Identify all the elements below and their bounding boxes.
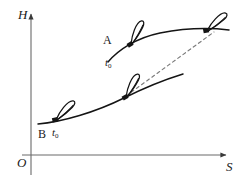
dashed-connector-line <box>126 32 214 96</box>
y-axis-label: H <box>18 8 27 21</box>
curve-b-label: B <box>38 128 46 140</box>
x-axis-label: S <box>226 160 233 173</box>
curve-b-time-subscript: 0 <box>55 132 59 140</box>
origin-label: O <box>17 156 26 169</box>
hs-diagram-figure: H S O A t0 B t0 <box>0 0 240 185</box>
vane-marker-b-mid <box>116 73 147 100</box>
vane-marker-a-left <box>120 20 151 48</box>
curve-b <box>38 74 183 124</box>
plot-canvas <box>0 0 240 185</box>
curve-a-label: A <box>103 34 112 46</box>
curve-a-time-subscript: 0 <box>108 62 112 70</box>
axes-group <box>22 14 226 175</box>
curve-b-time-label: t0 <box>52 127 59 140</box>
curve-a-time-label: t0 <box>105 57 112 70</box>
